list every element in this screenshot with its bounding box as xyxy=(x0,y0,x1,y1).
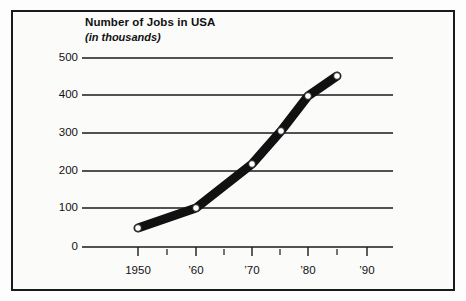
chart-figure: Number of Jobs in USA (in thousands) 500… xyxy=(0,0,466,301)
xtick-label-1960: ’60 xyxy=(166,264,226,276)
xtick-label-1980: ’80 xyxy=(278,264,338,276)
data-point-1970 xyxy=(249,161,256,168)
gridlines xyxy=(82,58,393,247)
ytick-label-300: 300 xyxy=(38,126,78,138)
ytick-label-100: 100 xyxy=(38,201,78,213)
xtick-label-1970: ’70 xyxy=(222,264,282,276)
xtick-label-1950: 1950 xyxy=(108,264,168,276)
chart-subtitle: (in thousands) xyxy=(85,31,161,43)
x-axis-ticks xyxy=(138,247,367,256)
xtick-label-1990: ’90 xyxy=(337,264,397,276)
ytick-label-500: 500 xyxy=(38,51,78,63)
data-point-1975 xyxy=(278,128,285,135)
ytick-label-0: 0 xyxy=(38,240,78,252)
ytick-label-400: 400 xyxy=(38,88,78,100)
chart-plot-area xyxy=(0,0,466,301)
data-point-1980 xyxy=(305,93,312,100)
data-point-1960 xyxy=(193,205,200,212)
ytick-label-200: 200 xyxy=(38,164,78,176)
data-point-1950 xyxy=(135,225,142,232)
chart-title: Number of Jobs in USA xyxy=(85,16,216,28)
data-point-1985 xyxy=(334,73,341,80)
